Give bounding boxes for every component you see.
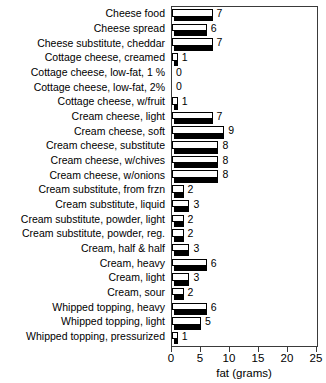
x-tick-label: 10: [223, 352, 236, 365]
bar-shadow: [174, 325, 202, 330]
category-label: Whipped topping, pressurized: [26, 331, 165, 342]
x-tick: [171, 346, 172, 352]
category-label: Cream substitute, powder, reg.: [22, 228, 165, 239]
bar-shadow: [174, 281, 190, 286]
category-label: Cream, light: [108, 272, 165, 283]
bar-value-label: 1: [182, 52, 188, 63]
category-label: Cream, heavy: [100, 258, 165, 269]
x-axis-title: fat (grams): [171, 367, 317, 380]
bar-value-label: 8: [222, 140, 228, 151]
bar-shadow: [174, 16, 213, 21]
bar-value-label: 6: [211, 23, 217, 34]
x-tick-label: 0: [168, 352, 174, 365]
bar-shadow: [174, 46, 213, 51]
category-label: Cottage cheese, low-fat, 1 %: [31, 67, 165, 78]
category-label: Cheese substitute, cheddar: [37, 38, 165, 49]
category-label: Cream cheese, w/onions: [49, 170, 165, 181]
category-label: Cream cheese, w/chives: [51, 155, 165, 166]
bar-value-label: 3: [193, 243, 199, 254]
bar-shadow: [174, 192, 184, 197]
bar-value-label: 7: [217, 8, 223, 19]
bar-value-label: 0: [176, 81, 182, 92]
bar-value-label: 9: [228, 125, 234, 136]
bar-value-label: 0: [176, 67, 182, 78]
fat-grams-bar-chart: Cheese foodCheese spreadCheese substitut…: [0, 0, 326, 383]
category-label: Cream cheese, light: [72, 111, 165, 122]
bar-value-label: 6: [211, 258, 217, 269]
category-label: Cheese food: [105, 8, 165, 19]
bar-value-label: 7: [217, 111, 223, 122]
x-tick-label: 20: [281, 352, 294, 365]
category-label: Cream, half & half: [81, 243, 165, 254]
category-label: Cottage cheese, low-fat, 2%: [34, 82, 165, 93]
category-label: Cream cheese, soft: [74, 126, 165, 137]
category-label: Cottage cheese, w/fruit: [58, 96, 165, 107]
bar-shadow: [174, 339, 178, 344]
bar-value-label: 5: [205, 316, 211, 327]
bar-value-label: 7: [217, 37, 223, 48]
category-label: Whipped topping, light: [61, 316, 165, 327]
x-tick: [258, 346, 259, 352]
x-tick: [200, 346, 201, 352]
bar-value-label: 2: [188, 287, 194, 298]
bar-shadow: [174, 295, 184, 300]
category-label: Whipped topping, heavy: [52, 302, 165, 313]
bar-shadow: [174, 104, 178, 109]
category-label: Cream, sour: [107, 287, 165, 298]
x-tick: [229, 346, 230, 352]
bar-shadow: [174, 178, 219, 183]
bar-shadow: [174, 236, 184, 241]
bar-shadow: [174, 148, 219, 153]
bar-value-label: 8: [222, 169, 228, 180]
x-tick-label: 15: [252, 352, 265, 365]
plot-area: 76710017988823223632651: [171, 6, 318, 347]
bar-value-label: 3: [193, 272, 199, 283]
bar-shadow: [174, 31, 207, 36]
bar-value-label: 2: [188, 184, 194, 195]
bar-shadow: [174, 266, 207, 271]
bar-value-label: 6: [211, 302, 217, 313]
bar-value-label: 1: [182, 96, 188, 107]
category-label: Cottage cheese, creamed: [45, 52, 165, 63]
category-label: Cream substitute, liquid: [55, 199, 165, 210]
bar-value-label: 3: [193, 199, 199, 210]
category-axis-labels: Cheese foodCheese spreadCheese substitut…: [0, 0, 168, 345]
x-axis-tick-labels: 0510152025: [0, 352, 326, 366]
bar-shadow: [174, 310, 207, 315]
bar-shadow: [174, 222, 184, 227]
category-label: Cream substitute, powder, light: [21, 214, 165, 225]
bar-value-label: 1: [182, 331, 188, 342]
bar-shadow: [174, 60, 178, 65]
x-tick-label: 5: [197, 352, 203, 365]
bar-shadow: [174, 251, 190, 256]
bar-shadow: [174, 119, 213, 124]
x-tick: [316, 346, 317, 352]
bar-value-label: 2: [188, 214, 194, 225]
bar-value-label: 2: [188, 228, 194, 239]
category-label: Cream substitute, from frzn: [38, 184, 165, 195]
category-label: Cream cheese, substitute: [46, 140, 165, 151]
bar-shadow: [174, 207, 190, 212]
category-label: Cheese spread: [94, 23, 165, 34]
bar-shadow: [174, 163, 219, 168]
bar-value-label: 8: [222, 155, 228, 166]
x-tick-label: 25: [310, 352, 323, 365]
x-tick: [287, 346, 288, 352]
bar-shadow: [174, 134, 225, 139]
